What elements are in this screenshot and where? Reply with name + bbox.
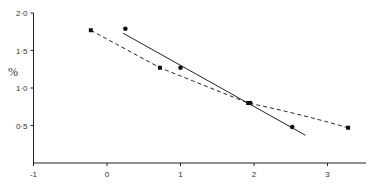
y-tick-label: 2·0 xyxy=(16,9,28,18)
square-marker xyxy=(346,126,350,130)
y-tick-label: 1·5 xyxy=(16,47,28,56)
x-tick-label: 2 xyxy=(252,170,257,179)
y-axis-label: % xyxy=(8,65,18,79)
x-tick-label: 0 xyxy=(105,170,110,179)
series-layer xyxy=(89,26,350,135)
chart: 0·51·01·52·0-10123% xyxy=(0,0,368,184)
circle-marker xyxy=(178,65,183,70)
regression-line xyxy=(123,33,305,135)
x-tick-label: -1 xyxy=(30,170,38,179)
y-tick-label: 0·5 xyxy=(16,122,28,131)
x-tick-label: 1 xyxy=(178,170,183,179)
square-marker xyxy=(89,28,93,32)
square-marker xyxy=(158,66,162,70)
y-tick-label: 1·0 xyxy=(16,84,28,93)
axes: 0·51·01·52·0-10123% xyxy=(8,9,366,179)
circle-marker xyxy=(290,125,295,130)
dashed-curve xyxy=(91,30,348,128)
x-tick-label: 3 xyxy=(325,170,330,179)
circle-marker xyxy=(248,101,253,106)
circle-marker xyxy=(123,26,128,31)
